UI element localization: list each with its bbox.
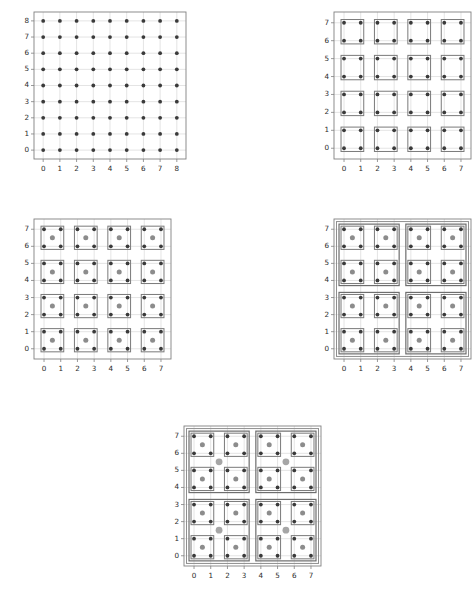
data-point	[376, 75, 380, 79]
data-point	[292, 554, 296, 558]
data-point	[292, 537, 296, 541]
data-point	[426, 21, 430, 25]
data-point	[58, 51, 62, 55]
y-tick-label: 5	[24, 258, 29, 267]
data-point	[300, 442, 305, 447]
data-point	[58, 35, 62, 39]
data-point	[109, 296, 113, 300]
data-point	[450, 304, 455, 309]
x-tick-label: 1	[358, 164, 363, 173]
data-point	[226, 537, 230, 541]
data-point	[142, 330, 146, 334]
data-point	[392, 347, 396, 351]
panel-4-cell-center-points	[350, 235, 455, 342]
data-point	[417, 269, 422, 274]
y-tick-label: 3	[324, 293, 329, 302]
y-tick-label: 4	[324, 275, 329, 284]
x-tick-label: 6	[442, 164, 447, 173]
data-point	[383, 235, 388, 240]
data-point	[175, 19, 179, 23]
data-point	[359, 146, 363, 150]
data-point	[59, 330, 63, 334]
data-point	[276, 554, 280, 558]
data-point	[242, 503, 246, 507]
data-point	[442, 39, 446, 43]
data-point	[459, 261, 463, 265]
data-point	[108, 84, 112, 88]
data-point	[75, 84, 79, 88]
x-tick-label: 6	[442, 364, 447, 373]
data-point	[292, 486, 296, 490]
data-point	[459, 110, 463, 114]
data-point	[342, 75, 346, 79]
data-point	[175, 116, 179, 120]
data-point	[300, 511, 305, 516]
y-tick-label: 5	[174, 465, 179, 474]
data-point	[426, 279, 430, 283]
data-point	[309, 451, 313, 455]
data-point	[459, 244, 463, 248]
data-point	[383, 304, 388, 309]
y-tick-label: 4	[174, 482, 179, 491]
data-point	[58, 19, 62, 23]
panel-2-x-axis: 01234567	[342, 159, 464, 173]
data-point	[392, 39, 396, 43]
data-point	[342, 330, 346, 334]
data-point	[142, 227, 146, 231]
data-point	[117, 269, 122, 274]
data-point	[426, 227, 430, 231]
y-tick-label: 1	[324, 125, 329, 134]
data-point	[75, 51, 79, 55]
x-tick-label: 3	[91, 164, 96, 173]
y-tick-label: 3	[174, 500, 179, 509]
x-tick-label: 1	[58, 364, 63, 373]
data-point	[59, 296, 63, 300]
data-point	[75, 35, 79, 39]
data-point	[150, 304, 155, 309]
data-point	[342, 347, 346, 351]
data-point	[192, 486, 196, 490]
panel-1-svg: 012345678012345678	[18, 8, 192, 181]
data-point	[450, 338, 455, 343]
data-point	[42, 261, 46, 265]
data-point	[376, 313, 380, 317]
data-point	[41, 100, 45, 104]
data-point	[459, 279, 463, 283]
data-point	[342, 110, 346, 114]
x-tick-label: 8	[175, 164, 180, 173]
data-point	[126, 227, 130, 231]
data-point	[226, 468, 230, 472]
data-point	[426, 39, 430, 43]
data-point	[459, 227, 463, 231]
y-tick-label: 6	[174, 448, 179, 457]
data-point	[159, 227, 163, 231]
data-point	[76, 261, 80, 265]
data-point	[142, 100, 146, 104]
x-tick-label: 2	[74, 164, 79, 173]
data-point	[75, 116, 79, 120]
data-point	[242, 468, 246, 472]
panel-4-axes-frame	[334, 219, 471, 359]
data-point	[192, 520, 196, 524]
x-tick-label: 6	[142, 364, 147, 373]
x-tick-label: 4	[259, 571, 264, 580]
y-tick-label: 1	[324, 327, 329, 336]
data-point	[350, 338, 355, 343]
panel-5-x-axis: 01234567	[192, 566, 314, 580]
data-point	[91, 51, 95, 55]
data-point	[83, 304, 88, 309]
x-tick-label: 6	[292, 571, 297, 580]
data-point	[342, 296, 346, 300]
data-point	[142, 19, 146, 23]
chart-panel-5: 0123456701234567	[168, 422, 327, 588]
x-tick-label: 3	[92, 364, 97, 373]
x-tick-label: 7	[159, 364, 164, 373]
y-tick-label: 5	[324, 258, 329, 267]
y-tick-label: 6	[24, 241, 29, 250]
data-point	[276, 468, 280, 472]
y-tick-label: 3	[324, 89, 329, 98]
data-point	[376, 227, 380, 231]
data-point	[392, 279, 396, 283]
data-point	[459, 57, 463, 61]
data-point	[376, 244, 380, 248]
